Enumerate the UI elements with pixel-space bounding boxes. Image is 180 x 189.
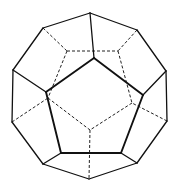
- outer-edges: [12, 13, 167, 179]
- hidden-edge: [12, 98, 48, 122]
- outer-edge: [12, 70, 13, 122]
- outer-edge: [166, 71, 167, 121]
- hidden-edge: [48, 51, 67, 98]
- dodecahedron-diagram: [0, 0, 180, 189]
- outer-edge: [12, 122, 43, 164]
- outer-edge: [13, 28, 43, 70]
- front-face-edge: [121, 95, 143, 153]
- front-face-edge: [94, 58, 143, 95]
- front-face-edge: [46, 92, 61, 153]
- hidden-edge: [90, 103, 132, 130]
- outer-edge: [43, 164, 89, 179]
- outer-edge: [137, 121, 167, 163]
- hidden-edge: [89, 130, 90, 179]
- front-face-edges: [46, 58, 143, 153]
- hidden-edge: [43, 28, 67, 51]
- outer-edge: [43, 13, 90, 28]
- spoke-edge: [43, 153, 61, 164]
- outer-edge: [89, 163, 137, 179]
- front-face-edge: [46, 58, 94, 92]
- spoke-edge: [13, 70, 46, 92]
- outer-edge: [90, 13, 137, 30]
- spoke-edge: [121, 153, 137, 163]
- hidden-edges: [12, 28, 167, 179]
- hidden-edge: [118, 30, 137, 51]
- spoke-edge: [143, 71, 166, 95]
- outer-edge: [137, 30, 166, 71]
